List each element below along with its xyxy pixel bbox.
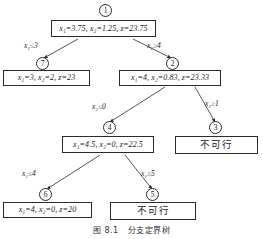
node-7-solution-text: x₁=3, x₂=2, z=23 <box>18 74 76 82</box>
node-circle-4[interactable]: 4 <box>103 121 116 134</box>
node-box-5[interactable]: 不可行 <box>110 202 196 220</box>
figure-caption-label: 图 8.1 <box>93 226 119 235</box>
node-box-1[interactable]: x₁=3.75, x₂=1.25, z=23.75 <box>51 20 156 37</box>
node-box-2[interactable]: x₁=4, x₂=0.83, z=23.33 <box>119 70 221 86</box>
node-6-solution-text: x₁=4, x₂=0, z=20 <box>19 206 77 214</box>
node-1-solution-text: x₁=3.75, x₂=1.25, z=23.75 <box>59 25 147 33</box>
node-4-solution-text: x₁=4.5, x₂=0, z=22.5 <box>73 141 143 149</box>
node-circle-3[interactable]: 3 <box>209 121 222 134</box>
node-5-infeasible-text: 不可行 <box>137 206 170 216</box>
edge-label-4-to-6: x₁≤4 <box>22 170 36 178</box>
figure-caption: 图 8.1分支定界树 <box>0 224 263 235</box>
node-circle-1[interactable]: 1 <box>99 4 112 17</box>
edge-label-2-to-3: x₂≥1 <box>205 100 219 108</box>
node-2-solution-text: x₁=4, x₂=0.83, z=23.33 <box>131 74 209 82</box>
node-3-infeasible-text: 不可行 <box>200 140 233 150</box>
node-box-4[interactable]: x₁=4.5, x₂=0, z=22.5 <box>62 136 154 153</box>
node-circle-5[interactable]: 5 <box>146 188 159 201</box>
figure-caption-title: 分支定界树 <box>128 226 171 235</box>
node-circle-2[interactable]: 2 <box>166 57 179 70</box>
edge-2-to-4 <box>110 87 165 122</box>
node-circle-6[interactable]: 6 <box>39 188 52 201</box>
edge-label-2-to-4: x₂≤0 <box>92 103 106 111</box>
edge-label-4-to-5: x₁≥5 <box>141 170 155 178</box>
edge-label-1-to-7: x₁≤3 <box>24 42 38 50</box>
node-circle-7[interactable]: 7 <box>36 57 49 70</box>
edge-label-1-to-2: x₁≥4 <box>147 42 161 50</box>
node-box-3[interactable]: 不可行 <box>175 136 258 154</box>
node-box-6[interactable]: x₁=4, x₂=0, z=20 <box>3 202 92 218</box>
edge-1-to-7 <box>44 39 78 58</box>
node-box-7[interactable]: x₁=3, x₂=2, z=23 <box>3 70 90 86</box>
branch-and-bound-tree-figure: 1 x₁=3.75, x₂=1.25, z=23.75 x₁≤3 7 x₁=3,… <box>0 0 263 239</box>
edge-4-to-6 <box>47 155 100 189</box>
